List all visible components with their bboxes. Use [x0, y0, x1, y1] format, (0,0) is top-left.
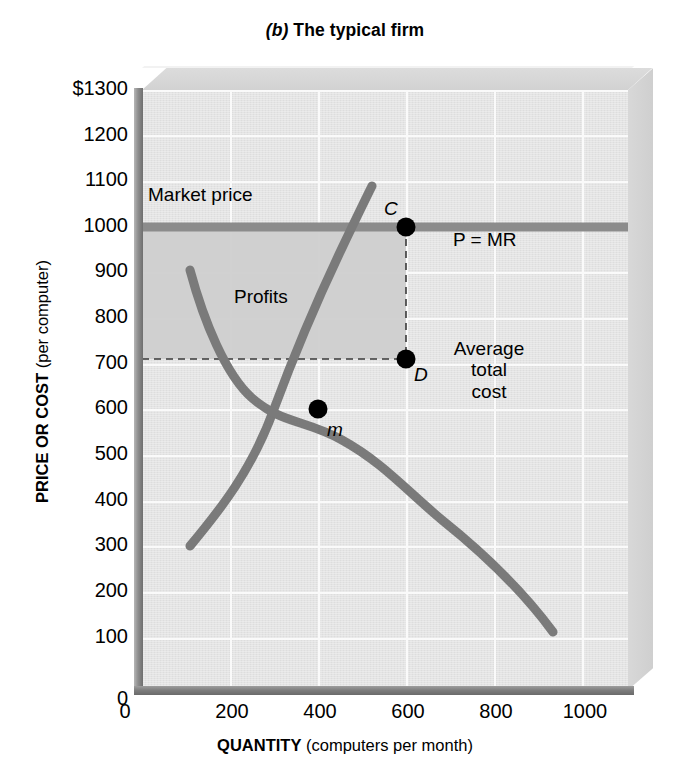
x-axis-title: QUANTITY (computers per month) — [0, 736, 690, 755]
atc-label-line1: Average — [439, 338, 539, 359]
y-tick-300-text: 300 — [95, 533, 128, 556]
y-tick-1300-text: $1300 — [72, 77, 128, 100]
y-tick-900-text: 900 — [95, 259, 128, 282]
y-tick-400-text: 400 — [95, 488, 128, 511]
y-axis-title-normal: (per computer) — [33, 260, 51, 373]
x-tick-800: 800 — [479, 700, 512, 723]
box-right-face — [628, 68, 653, 690]
chart-data-layer — [142, 90, 628, 690]
chart-title-prefix: (b) — [266, 20, 289, 40]
box-top-face — [142, 68, 652, 90]
chart-title-text: The typical firm — [288, 20, 424, 40]
atc-label-line2: total — [439, 359, 539, 380]
x-axis-title-normal: (computers per month) — [301, 736, 472, 754]
point-c-label: C — [384, 198, 398, 220]
y-tick-700-text: 700 — [95, 351, 128, 374]
y-axis-bar — [134, 88, 143, 692]
market-price-label: Market price — [148, 184, 253, 206]
x-tick-0: 0 — [119, 700, 130, 723]
x-tick-400: 400 — [303, 700, 336, 723]
y-axis-title-bold: PRICE OR COST — [33, 373, 51, 503]
point-m-label: m — [327, 419, 343, 441]
point-m-marker — [309, 400, 328, 419]
y-axis-title: PRICE OR COST (per computer) — [33, 172, 52, 592]
p-equals-mr-label: P = MR — [453, 229, 517, 251]
profits-label: Profits — [234, 286, 288, 308]
atc-label-line3: cost — [439, 381, 539, 402]
y-tick-600-text: 600 — [95, 396, 128, 419]
y-tick-500-text: 500 — [95, 442, 128, 465]
x-tick-200: 200 — [215, 700, 248, 723]
y-tick-1200-text: 1200 — [84, 123, 129, 146]
plot-area: Market price Profits P = MR Average tota… — [142, 90, 628, 690]
y-tick-1100-text: 1100 — [85, 168, 128, 191]
average-total-cost-label: Average total cost — [439, 338, 539, 402]
p-equals-mr-rest: = MR — [465, 229, 516, 250]
point-c-marker — [397, 218, 416, 237]
y-tick-1000-text: 1000 — [84, 214, 129, 237]
x-tick-1000: 1000 — [563, 700, 608, 723]
point-d-marker — [397, 350, 416, 369]
y-tick-200-text: 200 — [95, 579, 128, 602]
chart-figure: (b) The typical firm — [0, 0, 690, 779]
x-axis-title-bold: QUANTITY — [217, 736, 301, 754]
y-tick-800-text: 800 — [95, 305, 128, 328]
x-axis-bar — [134, 686, 634, 695]
p-equals-mr-symbol: P — [453, 229, 465, 250]
x-tick-600: 600 — [391, 700, 424, 723]
y-tick-100-text: 100 — [95, 625, 128, 648]
point-d-label: D — [414, 364, 428, 386]
y-tick-labels: $1300 1200 1100 1000 900 800 700 600 500… — [0, 0, 128, 779]
